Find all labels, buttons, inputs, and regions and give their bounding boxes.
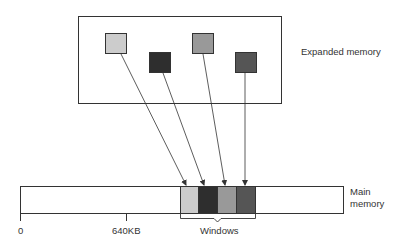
expanded-memory-label: Expanded memory: [301, 46, 381, 57]
windows-brace: [181, 214, 256, 222]
window-slot-1: [181, 187, 199, 214]
expanded-page-2: [150, 53, 171, 73]
main-memory-label-line2: memory: [350, 198, 384, 209]
window-slot-4: [237, 187, 256, 214]
expanded-page-3: [193, 34, 214, 54]
expanded-page-1: [106, 34, 127, 54]
main-memory-label-line1: Main: [350, 186, 371, 197]
tick-zero-label: 0: [18, 225, 23, 236]
expanded-memory-diagram: [0, 0, 398, 242]
window-slot-2: [199, 187, 218, 214]
tick-640kb-label: 640KB: [112, 225, 141, 236]
expanded-page-4: [236, 53, 257, 73]
windows-label: Windows: [200, 225, 239, 236]
window-slot-3: [218, 187, 237, 214]
